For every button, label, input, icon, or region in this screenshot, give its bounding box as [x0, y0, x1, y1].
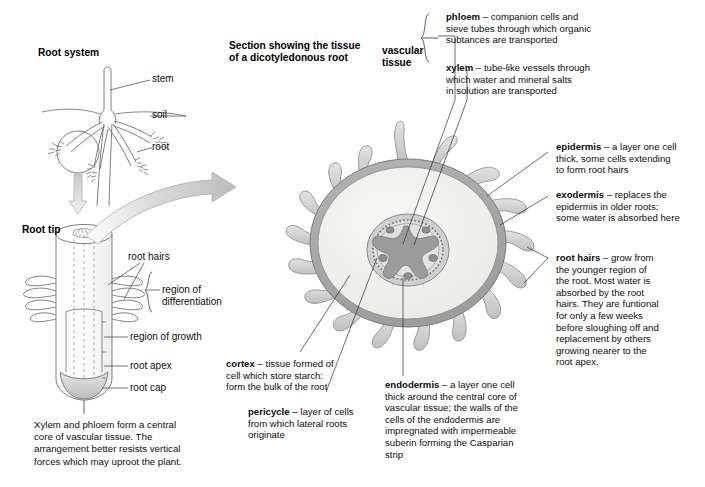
annotation-exodermis-line: replaces the: [615, 189, 667, 200]
annotation-dash: –: [255, 358, 266, 369]
root-tip-heading: Root tip: [22, 224, 60, 236]
down-arrow-icon: [69, 174, 87, 214]
annotation-root-hairs-line: replacement by others: [556, 333, 704, 345]
annotation-xylem: xylem – tube-like vessels through which …: [446, 62, 646, 97]
annotation-dash: –: [604, 189, 615, 200]
annotation-endodermis-line: vascular tissue; the walls of the: [385, 402, 550, 414]
annotation-root-hairs-line: absorbed by the root: [556, 287, 704, 299]
annotation-epidermis-line: a layer one cell: [612, 141, 677, 152]
annotation-endodermis-line: strip: [385, 449, 550, 461]
annotation-endodermis-line: impregnated with impermeable: [385, 425, 550, 437]
zoom-arrow-icon: [86, 172, 236, 244]
annotation-root-hairs: root hairs – grow from the younger regio…: [556, 252, 704, 368]
vascular-tissue-group-label: vascular tissue: [382, 45, 432, 70]
annotation-endodermis-line: cells of the endodermis are: [385, 414, 550, 426]
annotation-xylem-line: tube-like vessels through: [484, 62, 590, 73]
annotation-root-hairs-term: root hairs: [556, 252, 600, 263]
annotation-endodermis-line: thick around the central core of: [385, 391, 550, 403]
annotation-root-hairs-line: root apex.: [556, 356, 704, 368]
figure-title-line: of a dicotyledonous root: [229, 52, 389, 64]
annotation-dash: –: [473, 62, 484, 73]
annotation-cortex-term: cortex: [226, 358, 255, 369]
annotation-root-hairs-line: grow from: [611, 252, 654, 263]
annotation-exodermis: exodermis – replaces the epidermis in ol…: [556, 189, 705, 224]
annotation-epidermis-line: thick, some cells extending: [556, 153, 705, 165]
annotation-root-hairs-line: for only a few weeks: [556, 310, 704, 322]
annotation-root-hairs-line: hairs. They are funtional: [556, 298, 704, 310]
annotation-root-hairs-line: the younger region of: [556, 264, 704, 276]
annotation-dash: –: [439, 379, 450, 390]
annotation-cortex: cortex – tissue formed of cell which sto…: [226, 358, 391, 393]
label-root-hairs: root hairs: [128, 251, 170, 263]
annotation-cortex-line: tissue formed of: [265, 358, 333, 369]
annotation-root-hairs-line: growing nearer to the: [556, 345, 704, 357]
label-region-of-differentiation-line2: differentiation: [162, 296, 222, 308]
annotation-pericycle-term: pericycle: [248, 406, 290, 417]
annotation-endodermis-line: a layer one cell: [450, 379, 515, 390]
annotation-endodermis: endodermis – a layer one cell thick arou…: [385, 379, 550, 460]
annotation-pericycle-line: layer of cells: [300, 406, 353, 417]
annotation-exodermis-line: epidermis in older roots;: [556, 201, 705, 213]
annotation-epidermis-line: to form root hairs: [556, 164, 705, 176]
label-soil: soil: [152, 109, 167, 121]
annotation-pericycle-line: from which lateral roots: [248, 418, 408, 430]
annotation-exodermis-line: some water is absorbed here: [556, 212, 705, 224]
annotation-dash: –: [600, 252, 611, 263]
annotation-exodermis-term: exodermis: [556, 189, 604, 200]
vascular-label-line: tissue: [382, 57, 432, 69]
vascular-label-line: vascular: [382, 45, 432, 57]
annotation-pericycle-line: originate: [248, 429, 408, 441]
figure-title-line: Section showing the tissue: [229, 40, 389, 52]
annotation-xylem-term: xylem: [446, 62, 473, 73]
label-region-of-growth: region of growth: [130, 331, 202, 343]
annotation-dash: –: [601, 141, 612, 152]
annotation-cortex-line: cell which store starch:: [226, 370, 391, 382]
caption-line: core of vascular tissue. The: [34, 431, 222, 443]
annotation-xylem-line: in solution are transported: [446, 85, 646, 97]
annotation-dash: –: [480, 11, 491, 22]
annotation-epidermis: epidermis – a layer one cell thick, some…: [556, 141, 705, 176]
annotation-cortex-line: form the bulk of the root: [226, 381, 391, 393]
caption-line: Xylem and phloem form a central: [34, 419, 222, 431]
annotation-xylem-line: which water and mineral salts: [446, 74, 646, 86]
label-root-cap: root cap: [130, 382, 166, 394]
annotation-root-hairs-line: before sloughing off and: [556, 322, 704, 334]
label-root-apex: root apex: [130, 360, 172, 372]
root-tip-caption: Xylem and phloem form a central core of …: [34, 419, 222, 468]
root-system-heading: Root system: [38, 47, 99, 59]
annotation-epidermis-term: epidermis: [556, 141, 601, 152]
annotation-phloem: phloem – companion cells and sieve tubes…: [446, 11, 646, 46]
annotation-phloem-term: phloem: [446, 11, 480, 22]
annotation-phloem-line: sieve tubes through which organic: [446, 23, 646, 35]
annotation-endodermis-term: endodermis: [385, 379, 439, 390]
annotation-phloem-line: companion cells and: [491, 11, 578, 22]
label-region-of-differentiation-line1: region of: [162, 284, 201, 296]
annotation-dash: –: [290, 406, 301, 417]
label-stem: stem: [152, 73, 174, 85]
figure-title: Section showing the tissue of a dicotyle…: [229, 40, 389, 65]
annotation-endodermis-line: suberin forming the Casparian: [385, 437, 550, 449]
caption-line: forces which may uproot the plant.: [34, 456, 222, 468]
caption-line: arrangement better resists vertical: [34, 443, 222, 455]
label-root: root: [152, 141, 169, 153]
annotation-root-hairs-line: the root. Most water is: [556, 275, 704, 287]
annotation-pericycle: pericycle – layer of cells from which la…: [248, 406, 408, 441]
root-system-illustration: [42, 67, 186, 206]
diagram-canvas: Root system stem soil root Root tip root…: [0, 0, 705, 487]
annotation-phloem-line: subtances are transported: [446, 34, 646, 46]
